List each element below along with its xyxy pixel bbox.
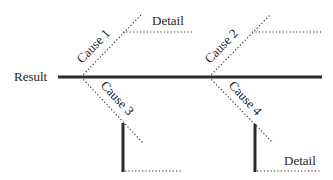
cause-1-detail-label: Detail <box>152 13 184 28</box>
cause-4-detail-label: Detail <box>284 153 316 168</box>
cause-2-label: Cause 2 <box>201 26 241 66</box>
cause-4-label: Cause 4 <box>226 78 266 119</box>
cause-branch-2: Cause 2 <box>201 14 321 77</box>
cause-3-label: Cause 3 <box>98 78 137 119</box>
fishbone-diagram: Result Cause 1 Detail Cause 2 Cause 3 Ca… <box>0 0 333 180</box>
result-label: Result <box>14 69 48 84</box>
cause-branch-1: Cause 1 Detail <box>73 13 192 77</box>
cause-branch-3: Cause 3 <box>81 77 182 172</box>
cause-branch-4: Cause 4 Detail <box>209 77 321 172</box>
cause-1-label: Cause 1 <box>73 26 113 66</box>
